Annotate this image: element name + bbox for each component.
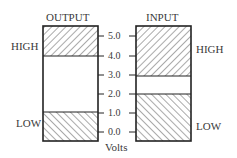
tick-label-1: 1.0 [108, 108, 121, 118]
tick-label-2: 2.0 [108, 89, 121, 99]
output-low-label: LOW [16, 118, 41, 129]
output-column [43, 26, 98, 141]
output-title: OUTPUT [46, 12, 89, 23]
input-high-region [136, 26, 191, 76]
output-high-region [43, 26, 98, 56]
input-column [136, 26, 191, 141]
output-low-region [43, 112, 98, 141]
input-low-region [136, 94, 191, 141]
input-high-label: HIGH [196, 44, 224, 55]
tick-label-3: 3.0 [108, 70, 121, 80]
axis-label-volts: Volts [105, 142, 127, 153]
input-title: INPUT [146, 12, 178, 23]
tick-label-5: 5.0 [108, 31, 121, 41]
input-low-label: LOW [196, 121, 221, 132]
output-high-label: HIGH [11, 41, 39, 52]
tick-label-4: 4.0 [108, 51, 121, 61]
tick-label-0: 0.0 [108, 127, 121, 137]
